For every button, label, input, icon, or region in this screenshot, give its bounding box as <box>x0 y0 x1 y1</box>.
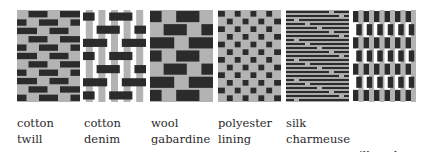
label-cotton-twill: cotton twill <box>17 115 54 147</box>
weave-pattern-plain <box>218 10 281 102</box>
label-polyester-lining: polyester lining <box>218 115 272 147</box>
weave-panel-cotton-denim <box>83 10 146 102</box>
weave-panel-silk-shantung <box>353 10 416 102</box>
weave-panel-wool-gabardine <box>150 10 213 102</box>
weave-pattern-denim <box>83 10 146 102</box>
weave-pattern-shantung <box>353 10 416 102</box>
label-line2: denim <box>84 131 121 147</box>
weave-pattern-satin <box>286 10 349 102</box>
label-line2: gabardine <box>151 131 210 147</box>
label-wool-gabardine: wool gabardine <box>151 115 210 147</box>
label-line1: silk <box>286 115 350 131</box>
label-line1: silk shan- <box>353 147 419 152</box>
label-silk-shantung: silk shan- tung <box>353 115 419 152</box>
weave-pattern-twill <box>17 10 80 102</box>
label-line1: cotton <box>17 115 54 131</box>
weave-panel-cotton-twill <box>17 10 80 102</box>
weave-panel-polyester-lining <box>218 10 281 102</box>
label-line1: cotton <box>84 115 121 131</box>
label-line1: polyester <box>218 115 272 131</box>
label-silk-charmeuse: silk charmeuse <box>286 115 350 147</box>
label-line2: charmeuse <box>286 131 350 147</box>
weave-pattern-gabardine <box>150 10 213 102</box>
label-line2: twill <box>17 131 54 147</box>
label-line2: lining <box>218 131 272 147</box>
label-line1: wool <box>151 115 210 131</box>
label-cotton-denim: cotton denim <box>84 115 121 147</box>
weave-panel-silk-charmeuse <box>286 10 349 102</box>
